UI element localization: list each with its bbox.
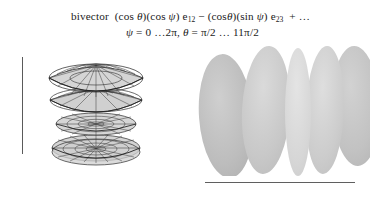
wireframe-surface-4 [52, 134, 140, 165]
wireframe-surface-3 [56, 113, 136, 135]
caption-psi-2: ψ [257, 10, 264, 22]
caption-term1-close: ) e [176, 10, 188, 22]
caption-psi-range: = 0 …2π, [133, 26, 180, 38]
caption-term2-mid: )(sin [233, 10, 257, 22]
caption-term1-open: (cos [115, 10, 137, 22]
caption-term2-open: (cos [208, 10, 227, 22]
lobe-3 [285, 48, 311, 176]
lobe-stack [190, 44, 370, 176]
caption-prefix: bivector [71, 10, 109, 22]
figure-caption: bivector (cos θ)(cos ψ) e12 − (cosθ)(sin… [0, 9, 381, 40]
caption-psi-1: ψ [169, 10, 176, 22]
figure-root: bivector (cos θ)(cos ψ) e12 − (cosθ)(sin… [0, 0, 381, 202]
caption-line-formula: bivector (cos θ)(cos ψ) e12 − (cosθ)(sin… [0, 9, 381, 25]
horizontal-scale-bar [205, 182, 355, 183]
caption-tail: + … [289, 10, 310, 22]
wireframe-stack [44, 48, 148, 170]
vertical-scale-bar [22, 57, 23, 154]
caption-term1-mid: )(cos [143, 10, 169, 22]
caption-theta-range: = π/2 … 11π/2 [189, 26, 259, 38]
wireframe-surface-1 [49, 64, 143, 97]
lobe-stack-svg [190, 44, 370, 176]
wireframe-stack-svg [44, 48, 148, 170]
caption-line-ranges: ψ = 0 …2π, θ = π/2 … 11π/2 [0, 25, 381, 40]
caption-term2-close: ) e [264, 10, 276, 22]
